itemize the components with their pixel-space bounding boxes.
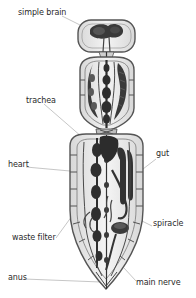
label-main-nerve: main nerve <box>136 278 180 287</box>
leader-waste-filter <box>56 216 72 238</box>
label-trachea: trachea <box>26 96 56 105</box>
label-gut: gut <box>156 149 169 158</box>
leader-trachea <box>44 104 82 137</box>
label-waste-filter: waste filter <box>12 233 56 242</box>
leader-main-nerve <box>124 268 136 281</box>
label-heart: heart <box>8 160 29 169</box>
label-anus: anus <box>8 273 27 282</box>
leader-gut <box>143 159 156 169</box>
head-segment <box>78 20 135 52</box>
thorax-segment <box>80 57 134 130</box>
leader-spiracle <box>142 221 152 226</box>
abdomen-segment <box>70 134 143 289</box>
label-simple-brain: simple brain <box>18 8 66 17</box>
label-spiracle: spiracle <box>153 219 183 228</box>
leader-heart <box>26 167 70 171</box>
leader-anus <box>24 279 101 282</box>
anatomy-diagram: simple brain trachea heart gut spiracle … <box>0 0 196 298</box>
